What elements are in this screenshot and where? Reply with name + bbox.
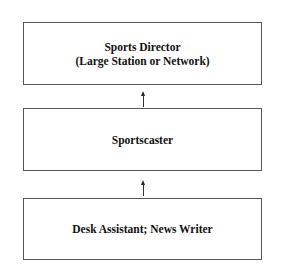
box-sports-director: Sports Director (Large Station or Networ… (23, 22, 262, 85)
box-sportscaster: Sportscaster (23, 108, 262, 171)
up-arrow-icon (142, 91, 145, 107)
box-title: Sports Director (104, 40, 180, 54)
box-desk-assistant-news-writer: Desk Assistant; News Writer (23, 198, 262, 260)
box-title: Desk Assistant; News Writer (72, 222, 212, 236)
box-subtitle: (Large Station or Network) (75, 54, 209, 68)
box-title: Sportscaster (112, 133, 173, 147)
up-arrow-icon (142, 180, 145, 196)
